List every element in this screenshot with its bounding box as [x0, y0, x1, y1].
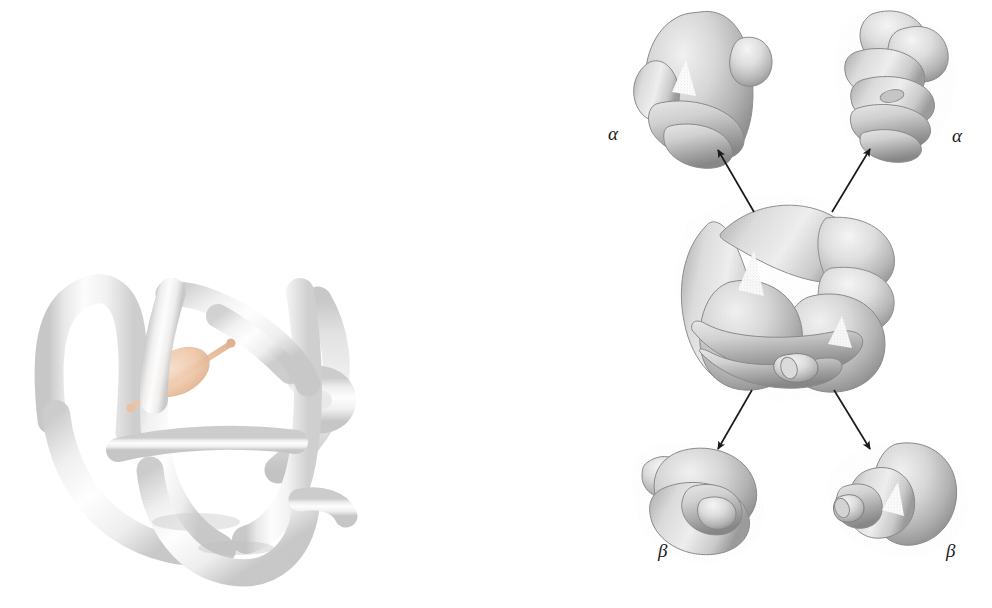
- protein-structure-figure: [0, 0, 992, 608]
- label-beta-bottom-right: β: [946, 541, 955, 560]
- label-beta-bottom-left: β: [658, 541, 667, 560]
- label-alpha-top-left: α: [608, 124, 618, 143]
- label-alpha-top-right: α: [952, 126, 962, 145]
- tube-segment-mid-horizontal: [118, 438, 296, 450]
- subunit-tetramer-center: [676, 194, 894, 402]
